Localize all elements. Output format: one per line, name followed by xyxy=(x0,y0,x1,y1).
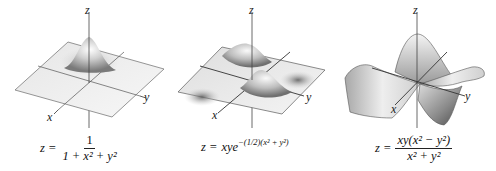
valley-right xyxy=(280,71,316,89)
y-axis-label: y xyxy=(306,91,311,103)
formula-1-fraction: 1 1 + x² + y² xyxy=(60,134,118,164)
surface-front-dip xyxy=(418,84,462,125)
formula-3-fraction: xy(x² − y²) x² + y² xyxy=(395,134,452,164)
surface-plot-1: z y x z = 1 1 + x² + y² xyxy=(0,0,165,171)
formula-2-base: xye xyxy=(221,140,238,155)
formula-1-denominator: 1 + x² + y² xyxy=(60,149,118,164)
formula-2: z = xye −(1/2)(x² + y²) xyxy=(201,140,289,155)
x-axis-label: x xyxy=(391,103,396,115)
formula-3-lhs: z = xyxy=(375,141,391,156)
surface-plot-2: z y x z = xye −(1/2)(x² + y²) xyxy=(165,0,331,171)
z-axis-label: z xyxy=(85,4,90,16)
formula-3-denominator: x² + y² xyxy=(405,149,442,164)
formula-1: z = 1 1 + x² + y² xyxy=(40,134,119,164)
x-axis-label: x xyxy=(212,109,217,121)
valley-left xyxy=(184,88,220,106)
formula-1-numerator: 1 xyxy=(84,134,94,149)
z-axis-label: z xyxy=(249,4,254,16)
y-axis-label: y xyxy=(465,90,470,102)
formula-3: z = xy(x² − y²) x² + y² xyxy=(375,134,452,164)
z-axis-label: z xyxy=(413,4,418,16)
formula-2-lhs: z = xyxy=(201,140,217,155)
x-axis-label: x xyxy=(47,111,52,123)
y-axis-label: y xyxy=(144,91,149,103)
formula-2-exponent: −(1/2)(x² + y²) xyxy=(238,137,289,147)
formula-1-lhs: z = xyxy=(40,141,56,156)
formula-3-numerator: xy(x² − y²) xyxy=(395,134,452,149)
surface-plot-3: z y x z = xy(x² − y²) x² + y² xyxy=(331,0,496,171)
